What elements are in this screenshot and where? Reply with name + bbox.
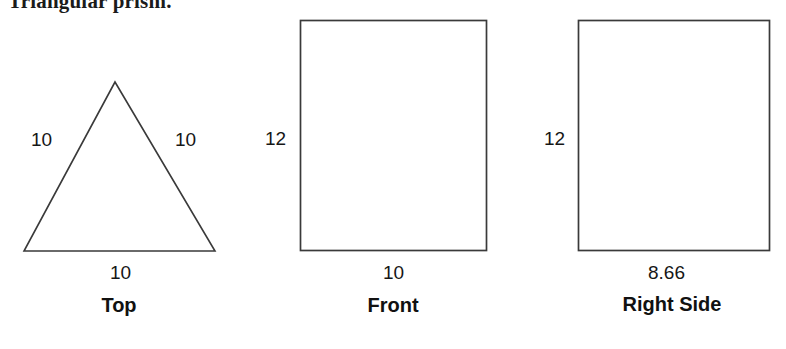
top-view-triangle [24, 82, 215, 251]
front-view-caption: Front [343, 295, 443, 315]
top-view-left-side-dimension: 10 [31, 130, 52, 149]
right-side-view-width-dimension: 8.66 [648, 263, 685, 282]
top-view-base-dimension: 10 [110, 263, 131, 282]
front-view-width-dimension: 10 [383, 263, 404, 282]
front-view-height-dimension: 12 [265, 129, 286, 148]
top-view-caption: Top [69, 295, 169, 315]
orthographic-projection-figure: Triangular prism. 10 10 10 Top 12 10 Fro… [0, 0, 786, 349]
right-side-view-caption: Right Side [597, 294, 747, 314]
right-side-view-rectangle [579, 21, 770, 251]
front-view-rectangle [301, 21, 487, 251]
right-side-view-height-dimension: 12 [544, 129, 565, 148]
top-view-right-side-dimension: 10 [175, 130, 196, 149]
